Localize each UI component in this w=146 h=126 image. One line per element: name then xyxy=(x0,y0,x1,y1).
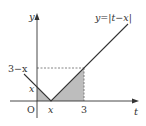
x-tick-3: 3 xyxy=(81,104,87,115)
x-tick-x: x xyxy=(48,104,54,115)
y-axis-label: y xyxy=(28,11,35,22)
y-axis-arrow-icon xyxy=(35,13,40,20)
t-axis-label: t xyxy=(134,106,139,117)
y-tick-x: x xyxy=(29,83,35,94)
function-label: y=|t−x| xyxy=(94,12,132,24)
y-tick-3-minus-x: 3−x xyxy=(8,63,28,74)
origin-label: O xyxy=(27,104,35,115)
absolute-value-graph: y y=|t−x| 3−x x O x 3 t xyxy=(0,0,146,126)
t-axis-arrow-icon xyxy=(132,99,139,104)
